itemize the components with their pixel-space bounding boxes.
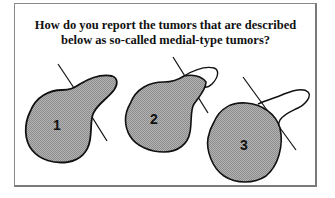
tumor-diagram-3: 3 — [208, 77, 310, 182]
tumor-label-2: 2 — [150, 111, 158, 127]
tumor-diagram-2: 2 — [126, 57, 218, 152]
tumor-label-3: 3 — [240, 137, 248, 153]
tumor-diagram-1: 1 — [26, 64, 117, 163]
tumor-diagrams: 1 2 3 — [0, 0, 335, 198]
tumor-label-1: 1 — [53, 117, 61, 133]
